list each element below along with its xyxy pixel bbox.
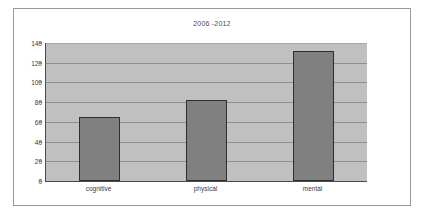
y-axis-tick	[39, 141, 42, 142]
gridline	[46, 43, 367, 44]
y-axis-tick	[39, 102, 42, 103]
chart-title: 2006 -2012	[14, 20, 410, 27]
y-axis: 020406080100120140	[14, 43, 42, 181]
y-axis-tick	[39, 121, 42, 122]
bar-mental	[293, 51, 334, 181]
x-axis-label-physical: physical	[194, 185, 217, 192]
y-axis-tick	[39, 62, 42, 63]
bar-cognitive	[79, 117, 120, 181]
x-axis-label-mental: mental	[303, 185, 323, 192]
y-axis-tick	[39, 161, 42, 162]
bar-physical	[186, 100, 227, 181]
x-axis: cognitivephysicalmental	[45, 185, 366, 199]
chart-frame: 2006 -2012 020406080100120140 cognitivep…	[13, 8, 411, 206]
plot-area	[45, 43, 367, 182]
x-axis-label-cognitive: cognitive	[86, 185, 112, 192]
y-axis-tick	[39, 82, 42, 83]
y-axis-tick	[39, 181, 42, 182]
y-axis-tick	[39, 43, 42, 44]
